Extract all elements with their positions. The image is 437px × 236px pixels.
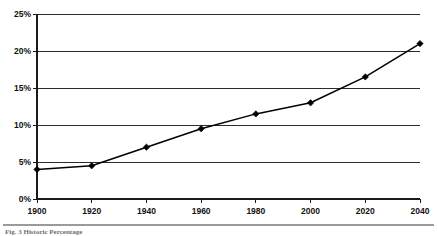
data-point-marker — [253, 111, 259, 117]
figure-caption: Fig. 3 Historic Percentage — [5, 228, 305, 236]
y-axis-tick-label: 0% — [19, 194, 32, 204]
y-axis-tick-label: 10% — [14, 120, 31, 130]
data-point-marker — [34, 166, 40, 172]
y-axis-tick-label: 25% — [14, 9, 31, 19]
x-axis-tick-label: 2000 — [301, 206, 320, 216]
x-axis-tick-label: 1920 — [82, 206, 101, 216]
y-axis-tick-label: 5% — [19, 157, 32, 167]
data-series-line — [37, 44, 420, 170]
data-point-marker — [143, 144, 149, 150]
x-axis-tick-label: 1940 — [137, 206, 156, 216]
y-axis-tick-label: 15% — [14, 83, 31, 93]
data-point-marker — [307, 100, 313, 106]
data-point-marker — [89, 163, 95, 169]
x-axis-tick-label: 2020 — [356, 206, 375, 216]
x-axis-tick-label: 1980 — [246, 206, 265, 216]
data-point-marker — [362, 74, 368, 80]
footer-divider — [3, 224, 434, 226]
chart-figure: 0%5%10%15%20%25%190019201940196019802000… — [0, 0, 437, 236]
x-axis-tick-label: 1960 — [192, 206, 211, 216]
data-point-marker — [198, 126, 204, 132]
y-axis-tick-label: 20% — [14, 46, 31, 56]
line-chart: 0%5%10%15%20%25%190019201940196019802000… — [0, 0, 437, 236]
x-axis-tick-label: 2040 — [411, 206, 430, 216]
x-axis-tick-label: 1900 — [28, 206, 47, 216]
